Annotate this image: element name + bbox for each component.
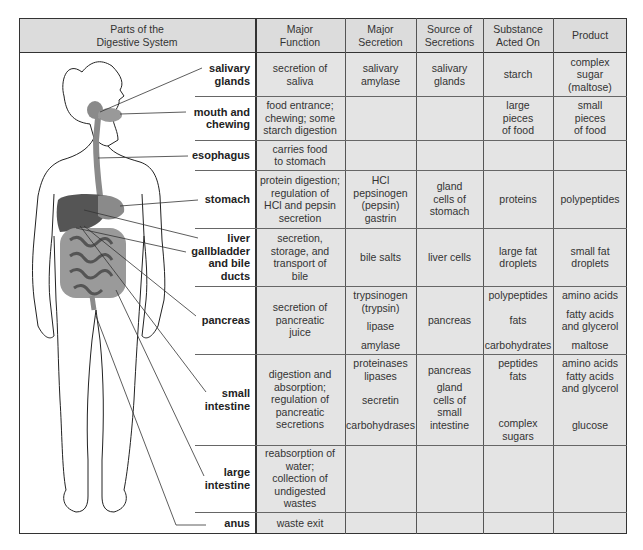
substance-item: complex sugars	[498, 417, 537, 442]
cell-product: small fat droplets	[553, 228, 627, 286]
secretion-item: amylase	[361, 339, 400, 352]
cell-function: digestion and absorption; regulation of …	[255, 354, 345, 445]
part-label-mouth: mouth and chewing	[194, 96, 250, 140]
product-item: maltose	[572, 339, 609, 352]
header-substance-acted-on: Substance Acted On	[483, 18, 553, 53]
cell-substance: large pieces of food	[483, 96, 553, 140]
source-item: gland cells of small intestine	[430, 381, 469, 431]
part-label-salivary-glands: salivary glands	[209, 53, 250, 96]
substance-item: fats	[510, 314, 527, 327]
cell-function: carries food to stomach	[255, 140, 345, 170]
product-item: amino acids	[562, 289, 618, 302]
header-source-of-secretions: Source of Secretions	[416, 18, 483, 53]
cell-source: gland cells of stomach	[416, 170, 483, 228]
secretion-item: trypsinogen (trypsin)	[353, 289, 407, 314]
cell-product: amino acids fatty acids and glycerol glu…	[553, 354, 627, 445]
cell-function: waste exit	[255, 512, 345, 534]
cell-substance: proteins	[483, 170, 553, 228]
substance-item: peptides fats	[498, 357, 538, 382]
cell-product: small pieces of food	[553, 96, 627, 140]
part-label-anus: anus	[224, 512, 250, 534]
part-label-esophagus: esophagus	[192, 140, 250, 170]
product-item: fatty acids and glycerol	[562, 308, 619, 333]
cell-secretion: trypsinogen (trypsin) lipase amylase	[345, 286, 416, 354]
header-parts: Parts of the Digestive System	[19, 18, 255, 53]
part-label-large-intestine: large intestine	[205, 445, 250, 512]
product-item: glucose	[572, 419, 608, 432]
cell-function: secretion of pancreatic juice	[255, 286, 345, 354]
cell-product: complex sugar (maltose)	[553, 53, 627, 96]
substance-item: carbohydrates	[485, 339, 552, 352]
cell-secretion: HCl pepsinogen (pepsin) gastrin	[345, 170, 416, 228]
header-major-secretion: Major Secretion	[345, 18, 416, 53]
cell-secretion: bile salts	[345, 228, 416, 286]
cell-product: polypeptides	[553, 170, 627, 228]
product-item: amino acids fatty acids and glycerol	[562, 357, 619, 395]
secretion-item: proteinases lipases	[353, 357, 407, 382]
cell-source: pancreas gland cells of small intestine	[416, 354, 483, 445]
cell-secretion: salivary amylase	[345, 53, 416, 96]
secretion-item: carbohydrases	[346, 419, 415, 432]
cell-source: liver cells	[416, 228, 483, 286]
cell-substance: polypeptides fats carbohydrates	[483, 286, 553, 354]
cell-substance: large fat droplets	[483, 228, 553, 286]
part-label-pancreas: pancreas	[202, 286, 250, 354]
part-label-small-intestine: small intestine	[205, 354, 250, 445]
part-label-liver: liver gallbladder and bile ducts	[191, 228, 250, 286]
cell-substance: starch	[483, 53, 553, 96]
cell-function: reabsorption of water; collection of und…	[255, 445, 345, 512]
cell-function: protein digestion; regulation of HCl and…	[255, 170, 345, 228]
cell-function: secretion of saliva	[255, 53, 345, 96]
cell-source: salivary glands	[416, 53, 483, 96]
cell-secretion: proteinases lipases secretin carbohydras…	[345, 354, 416, 445]
secretion-item: lipase	[367, 320, 394, 333]
cell-source: pancreas	[416, 286, 483, 354]
substance-item: polypeptides	[489, 289, 548, 302]
secretion-item: secretin	[362, 394, 399, 407]
cell-function: secretion, storage, and transport of bil…	[255, 228, 345, 286]
source-item: pancreas	[428, 364, 471, 377]
cell-function: food entrance; chewing; some starch dige…	[255, 96, 345, 140]
header-major-function: Major Function	[255, 18, 345, 53]
cell-product: amino acids fatty acids and glycerol mal…	[553, 286, 627, 354]
cell-substance: peptides fats complex sugars	[483, 354, 553, 445]
part-label-stomach: stomach	[205, 170, 250, 228]
header-product: Product	[553, 18, 627, 53]
